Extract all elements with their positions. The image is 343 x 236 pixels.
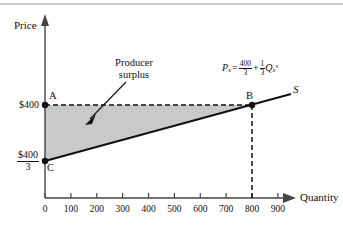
supply-equation: Px=4003+13Qxs [222, 60, 278, 77]
x-axis-ticks [45, 193, 278, 198]
producer-surplus-annotation: Producer surplus [98, 57, 170, 81]
y-axis-title: Price [14, 20, 37, 31]
point-label-b: B [246, 91, 253, 102]
fraction-numerator: $400 [17, 150, 39, 162]
x-tick-label-200: 200 [86, 205, 108, 215]
x-tick-label-700: 700 [215, 205, 237, 215]
y-tick-label-400: $400 [6, 100, 39, 110]
chart-canvas [0, 0, 343, 236]
x-tick-label-900: 900 [267, 205, 289, 215]
x-tick-label-0: 0 [37, 205, 53, 215]
equation-fraction-400-3: 4003 [239, 60, 252, 77]
equation-equals: = [231, 62, 239, 73]
point-label-c: C [47, 163, 54, 174]
x-tick-label-100: 100 [60, 205, 82, 215]
fraction-denominator: 3 [17, 162, 39, 173]
x-axis-arrow-icon [283, 193, 296, 203]
annotation-line-2: surplus [119, 69, 149, 80]
x-axis-title: Quantity [300, 192, 339, 203]
producer-surplus-figure: Price Quantity $400 $400 3 0 100 200 300… [0, 0, 343, 236]
point-label-a: A [49, 91, 57, 102]
equation-plus: + [252, 62, 260, 73]
y-axis-arrow-icon [41, 14, 49, 26]
equation-term1-denominator: 3 [239, 69, 252, 77]
point-a-marker [42, 102, 48, 108]
supply-curve-label: S [293, 84, 299, 95]
annotation-line-1: Producer [115, 57, 153, 68]
equation-q-symbol: Q [265, 62, 272, 73]
point-b-marker [249, 102, 255, 108]
fraction-400-over-3: $400 3 [17, 150, 39, 172]
x-tick-label-300: 300 [112, 205, 134, 215]
x-tick-label-500: 500 [163, 205, 185, 215]
x-tick-label-800: 800 [241, 205, 263, 215]
x-tick-label-400: 400 [138, 205, 160, 215]
x-tick-label-600: 600 [189, 205, 211, 215]
equation-q-superscript: s [275, 62, 278, 69]
y-tick-label-400-over-3: $400 3 [4, 150, 39, 172]
